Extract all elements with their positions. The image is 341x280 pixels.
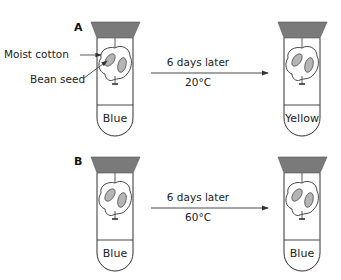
arrow-a-top-label: 6 days later — [167, 56, 230, 68]
arrow-b-bottom-label: 60°C — [185, 211, 211, 223]
annotation-moist-cotton: Moist cotton — [4, 48, 69, 60]
tube-b-before-label: Blue — [103, 247, 128, 260]
tube-a-before-label: Blue — [103, 112, 128, 125]
arrow-b-top-label: 6 days later — [167, 191, 230, 203]
experiment-diagram: A Blue Moist cotton Bean seed 6 days lat… — [0, 0, 341, 280]
annotation-bean-seed: Bean seed — [30, 73, 85, 85]
arrow-b: 6 days later 60°C — [151, 191, 268, 223]
panel-b: B Blue 6 days later 60°C Blue — [74, 155, 327, 271]
panel-label-b: B — [74, 155, 82, 168]
panel-label-a: A — [74, 21, 83, 34]
arrow-a-bottom-label: 20°C — [185, 76, 211, 88]
panel-a: A Blue Moist cotton Bean seed 6 days lat… — [4, 21, 327, 136]
arrow-a: 6 days later 20°C — [151, 56, 268, 88]
tube-a-after-label: Yellow — [284, 112, 319, 125]
tube-b-after-label: Blue — [290, 247, 315, 260]
